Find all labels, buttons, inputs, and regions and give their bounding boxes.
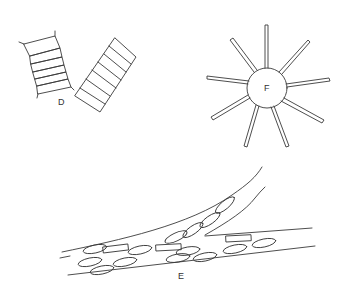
panel-d-small-chain — [19, 31, 74, 98]
panel-d-large-chain — [75, 38, 136, 112]
diatom-illustration — [0, 0, 350, 290]
panel-label-e: E — [178, 272, 184, 281]
panel-label-f: F — [264, 84, 270, 93]
panel-label-d: D — [58, 98, 65, 107]
panel-e-filaments — [60, 167, 315, 276]
